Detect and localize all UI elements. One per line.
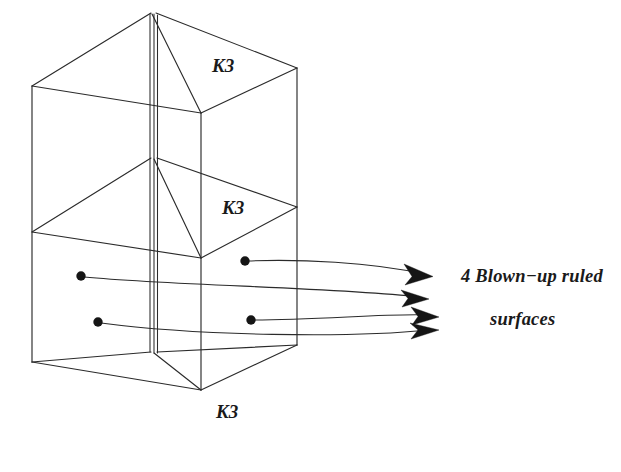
mid-lower-left-edge xyxy=(32,232,201,258)
callout-text-line-1: 4 Blown−up ruled xyxy=(460,266,603,286)
roof-front-left-fold xyxy=(152,14,201,113)
dot-marker-2 xyxy=(76,271,85,280)
arrow-head-3 xyxy=(411,307,439,325)
leader-line-1 xyxy=(247,260,424,274)
bottom-rim-right xyxy=(201,345,297,390)
floor-front-left-fold xyxy=(154,353,201,390)
mid-upper-left-edge xyxy=(32,158,151,232)
callout-text-line-2: surfaces xyxy=(489,309,555,329)
arrow-head-2 xyxy=(401,290,429,307)
k3-label-middle: K3 xyxy=(221,197,244,218)
k3-label-bottom: K3 xyxy=(215,401,238,422)
central-seam xyxy=(150,14,158,353)
floor-right-ridge xyxy=(157,345,297,352)
dot-marker-3 xyxy=(246,315,255,324)
floor-left-ridge xyxy=(32,352,151,362)
callout-leaders xyxy=(76,256,439,339)
vertical-body-edges xyxy=(32,68,297,390)
figure-root: K3 K3 K3 4 Blown−up ruled surfaces xyxy=(0,0,621,472)
k3-label-top: K3 xyxy=(211,55,234,76)
degeneration-diagram: K3 K3 K3 4 Blown−up ruled surfaces xyxy=(0,0,621,472)
leader-line-3 xyxy=(254,315,429,320)
bottom-rim-left xyxy=(32,362,201,390)
bottom-tent-section xyxy=(32,345,297,390)
dot-marker-4 xyxy=(93,317,102,326)
arrow-head-1 xyxy=(404,264,433,285)
top-tent-section xyxy=(32,13,297,113)
mid-front-fold xyxy=(154,159,201,258)
roof-left-ridge xyxy=(32,13,151,86)
dot-marker-1 xyxy=(240,256,249,265)
top-rim-left xyxy=(32,86,201,113)
leader-line-2 xyxy=(84,277,420,297)
mid-lower-right-edge xyxy=(201,207,297,258)
middle-k3-section xyxy=(32,158,297,258)
